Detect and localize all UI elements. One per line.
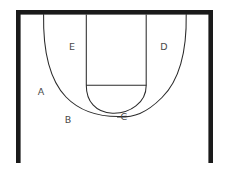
- label-c: C: [121, 112, 128, 122]
- frame-right-bar: [208, 10, 213, 163]
- label-b: B: [65, 115, 72, 125]
- outer-right-arc: [118, 14, 187, 117]
- label-e: E: [69, 42, 75, 52]
- frame-left-bar: [16, 10, 21, 163]
- outer-left-arc: [44, 14, 127, 116]
- frame-top-bar: [16, 10, 213, 15]
- arch-diagram-figure: [0, 0, 230, 170]
- diagram-canvas: A B C D E: [0, 0, 230, 170]
- frame-group: [16, 10, 213, 163]
- inner-u-arc: [86, 85, 146, 113]
- label-a: A: [38, 87, 45, 97]
- label-d: D: [160, 42, 168, 52]
